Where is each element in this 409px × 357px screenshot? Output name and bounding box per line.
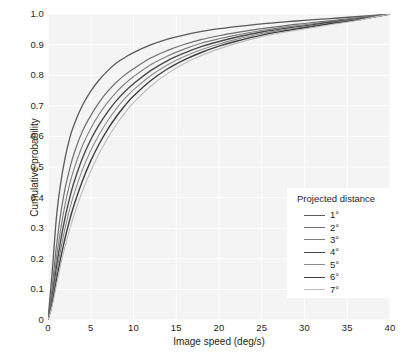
legend-item[interactable]: 4° (287, 246, 397, 258)
legend-item[interactable]: 3° (287, 234, 397, 246)
legend-item[interactable]: 1° (287, 209, 397, 221)
legend-swatch-line-icon (304, 227, 325, 228)
x-axis-tick-labels: 0510152025303540 (48, 322, 390, 336)
legend-item-label: 7° (330, 285, 339, 295)
legend-swatch-line-icon (304, 289, 325, 290)
legend-swatch-line-icon (304, 277, 325, 278)
legend-item[interactable]: 2° (287, 221, 397, 233)
legend-item[interactable]: 6° (287, 271, 397, 283)
legend-item-label: 5° (330, 260, 339, 270)
x-tick-label: 30 (299, 322, 310, 333)
legend-item[interactable]: 5° (287, 259, 397, 271)
y-axis-title: Cumulative probability (29, 68, 40, 268)
legend: Projected distance 1°2°3°4°5°6°7° (287, 188, 397, 298)
x-tick-label: 15 (171, 322, 182, 333)
legend-title: Projected distance (297, 193, 375, 204)
x-tick-label: 0 (45, 322, 50, 333)
legend-item-label: 6° (330, 272, 339, 282)
chart-figure: 1.00.90.80.70.60.50.40.30.20.10 Cumulati… (0, 0, 409, 357)
x-tick-label: 5 (88, 322, 93, 333)
x-tick-label: 40 (385, 322, 396, 333)
legend-swatch-line-icon (304, 215, 325, 216)
legend-swatch-line-icon (304, 264, 325, 265)
y-axis-title-container: Cumulative probability (14, 14, 30, 320)
legend-item-label: 2° (330, 223, 339, 233)
legend-item-list: 1°2°3°4°5°6°7° (287, 209, 397, 296)
legend-item-label: 4° (330, 247, 339, 257)
legend-swatch-line-icon (304, 252, 325, 253)
x-tick-label: 20 (214, 322, 225, 333)
x-axis-title: Image speed (deg/s) (48, 336, 390, 347)
x-tick-label: 10 (128, 322, 139, 333)
x-tick-label: 25 (256, 322, 267, 333)
legend-item-label: 1° (330, 210, 339, 220)
legend-item[interactable]: 7° (287, 283, 397, 295)
x-tick-label: 35 (342, 322, 353, 333)
legend-swatch-line-icon (304, 239, 325, 240)
legend-item-label: 3° (330, 235, 339, 245)
